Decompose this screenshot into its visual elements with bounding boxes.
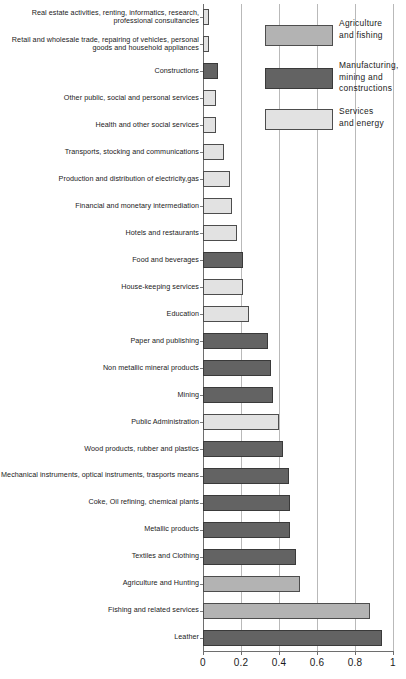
bar	[203, 63, 218, 79]
bar	[203, 522, 290, 538]
x-axis-tick	[279, 651, 280, 655]
x-axis-tick	[241, 651, 242, 655]
x-axis-baseline	[203, 651, 394, 652]
bar-row-label: Mechanical instruments, optical instrume…	[0, 471, 203, 480]
bar-row-label: Transports, stocking and communications	[0, 148, 203, 157]
bar-row-label: Real estate activities, renting, informa…	[0, 9, 203, 26]
legend-swatch	[265, 68, 333, 89]
bar-row-label: Paper and publishing	[0, 337, 203, 346]
bar-row-label: Financial and monetary intermediation	[0, 202, 203, 211]
bar-row-label: Constructions	[0, 67, 203, 76]
bar	[203, 549, 296, 565]
bar-row-label: Coke, Oil refining, chemical plants	[0, 498, 203, 507]
bar	[203, 198, 232, 214]
bar-row-label: Health and other social services	[0, 121, 203, 130]
x-axis-tick-label: 0.8	[348, 657, 363, 668]
legend-label: Agriculture and fishing	[339, 18, 383, 41]
horizontal-bar-chart: Real estate activities, renting, informa…	[0, 0, 406, 679]
bar-row-label: Metallic products	[0, 525, 203, 534]
legend-swatch	[265, 109, 333, 130]
bar-row-label: House-keeping services	[0, 283, 203, 292]
x-axis-tick-label: 1	[390, 657, 396, 668]
bar-row-label: Food and beverages	[0, 256, 203, 265]
bar	[203, 630, 382, 646]
legend-label: Manufacturing, mining and constructions	[339, 60, 399, 95]
legend-label: Services and energy	[339, 106, 384, 129]
bar-row-label: Retail and wholesale trade, repairing of…	[0, 36, 203, 53]
bar-row-label: Public Administration	[0, 418, 203, 427]
x-axis-tick-label: 0	[200, 657, 206, 668]
bar	[203, 225, 237, 241]
bar	[203, 603, 370, 619]
bar	[203, 279, 243, 295]
bar-row-label: Fishing and related services	[0, 606, 203, 615]
x-axis-tick	[317, 651, 318, 655]
bar-row-label: Non metallic mineral products	[0, 364, 203, 373]
bar-row-label: Leather	[0, 633, 203, 642]
bar-row-label: Production and distribution of electrici…	[0, 175, 203, 184]
x-axis-tick-label: 0.4	[272, 657, 287, 668]
x-axis-tick	[393, 651, 394, 655]
bar-row-label: Education	[0, 310, 203, 319]
bar	[203, 387, 273, 403]
bar	[203, 171, 230, 187]
x-axis-tick-label: 0.2	[234, 657, 249, 668]
bar	[203, 333, 268, 349]
bar	[203, 414, 279, 430]
bar	[203, 441, 283, 457]
x-axis-tick	[355, 651, 356, 655]
bar-row-label: Wood products, rubber and plastics	[0, 445, 203, 454]
x-axis-tick-label: 0.6	[310, 657, 325, 668]
bar-row-label: Mining	[0, 391, 203, 400]
bar	[203, 144, 224, 160]
bar	[203, 36, 209, 52]
bar	[203, 117, 216, 133]
bar	[203, 90, 216, 106]
bar-row-label: Other public, social and personal servic…	[0, 94, 203, 103]
x-axis-tick	[203, 651, 204, 655]
bar	[203, 9, 209, 25]
bar	[203, 468, 289, 484]
legend-swatch	[265, 25, 333, 46]
bar	[203, 306, 249, 322]
bar	[203, 252, 243, 268]
bar-row-label: Textiles and Clothing	[0, 552, 203, 561]
bar	[203, 360, 271, 376]
bar	[203, 576, 300, 592]
bar	[203, 495, 290, 511]
bar-row-label: Agriculture and Hunting	[0, 579, 203, 588]
bar-row-label: Hotels and restaurants	[0, 229, 203, 238]
